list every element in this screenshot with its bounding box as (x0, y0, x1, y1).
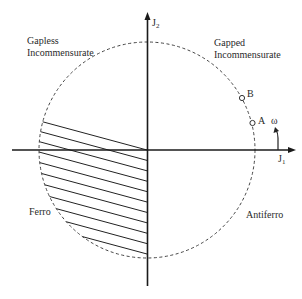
y-axis-arrow-icon (145, 12, 151, 20)
ferro-hatching (39, 122, 147, 254)
region-label-gapped: Gapped (214, 37, 245, 48)
point-a-marker (250, 120, 255, 125)
omega-angle-arrow (274, 127, 280, 150)
y-axis-label: J2 (152, 17, 160, 30)
omega-label: ω (271, 115, 278, 126)
omega-arrowhead-icon (274, 127, 280, 133)
point-b-label: B (247, 88, 254, 99)
region-label-ferro: Ferro (29, 206, 51, 217)
region-label-gapless: Gapless (27, 35, 59, 46)
region-label-gapped-line2: Incommensurate (214, 49, 281, 60)
phase-diagram: J2 J1 Gapless Incommensurate Gapped Inco… (0, 0, 302, 299)
point-b-marker (239, 95, 244, 100)
region-label-antiferro: Antiferro (246, 209, 283, 220)
x-axis (12, 147, 296, 153)
point-a-label: A (258, 115, 266, 126)
x-axis-label: J1 (278, 153, 286, 166)
y-axis (145, 12, 151, 286)
region-label-gapless-line2: Incommensurate (27, 47, 94, 58)
x-axis-arrow-icon (288, 147, 296, 153)
